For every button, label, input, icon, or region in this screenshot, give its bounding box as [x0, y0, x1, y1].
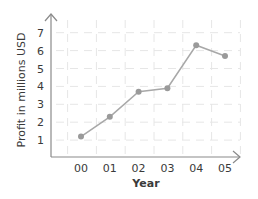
y-tick-labels: 1234567 — [37, 27, 44, 147]
y-tick-label: 7 — [37, 27, 44, 40]
x-tick-labels: 000102030405 — [74, 162, 232, 175]
y-tick-label: 4 — [37, 80, 44, 93]
line-chart: 1234567 000102030405 Profit in millions … — [0, 0, 258, 199]
data-point-marker — [193, 42, 199, 48]
y-axis-title: Profit in millions USD — [15, 32, 28, 147]
x-axis-title: Year — [131, 177, 160, 190]
data-point-marker — [164, 85, 170, 91]
data-point-marker — [78, 134, 84, 140]
x-tick-label: 02 — [132, 162, 146, 175]
x-tick-label: 04 — [189, 162, 203, 175]
x-tick-label: 01 — [103, 162, 117, 175]
axes — [45, 14, 240, 163]
y-tick-label: 6 — [37, 45, 44, 58]
y-tick-label: 2 — [37, 116, 44, 129]
data-series — [78, 42, 228, 139]
data-point-marker — [136, 89, 142, 95]
x-tick-label: 05 — [218, 162, 232, 175]
series-line — [81, 45, 225, 136]
data-point-marker — [107, 114, 113, 120]
x-tick-label: 03 — [160, 162, 174, 175]
y-tick-label: 1 — [37, 134, 44, 147]
data-point-marker — [222, 53, 228, 59]
y-tick-label: 3 — [37, 98, 44, 111]
chart-canvas: 1234567 000102030405 Profit in millions … — [0, 0, 258, 199]
y-tick-label: 5 — [37, 63, 44, 76]
x-tick-label: 00 — [74, 162, 88, 175]
